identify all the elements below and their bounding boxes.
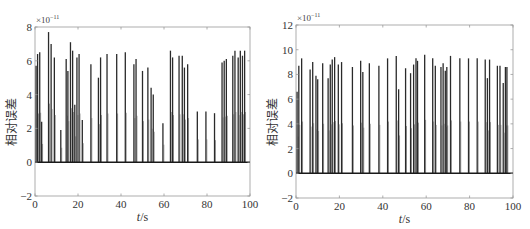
y-tick-label: 10 bbox=[282, 44, 294, 56]
x-tick-label: 80 bbox=[464, 200, 476, 212]
y-tick-label: 12 bbox=[282, 19, 293, 31]
x-tick-label: 0 bbox=[32, 198, 38, 210]
y-tick-label: 4 bbox=[288, 118, 294, 130]
x-tick-label: 60 bbox=[421, 200, 433, 212]
y-tick-label: 6 bbox=[27, 55, 33, 67]
y-tick-label: 2 bbox=[27, 122, 33, 134]
right-chart-panel: 020406080100−2024681012×10−11t/s相对误差 bbox=[265, 0, 530, 229]
x-tick-label: 20 bbox=[334, 200, 346, 212]
y-axis-title: 相对误差 bbox=[266, 98, 280, 146]
x-tick-label: 0 bbox=[293, 200, 299, 212]
x-tick-label: 100 bbox=[505, 200, 522, 212]
y-tick-label: 8 bbox=[27, 21, 33, 33]
left-chart: 020406080100−202468×10−11t/s相对误差 bbox=[0, 0, 265, 229]
x-tick-label: 40 bbox=[377, 200, 389, 212]
y-exponent-label: ×10−11 bbox=[297, 12, 320, 23]
stem-series bbox=[297, 55, 508, 174]
y-tick-label: 6 bbox=[288, 93, 294, 105]
y-tick-label: 0 bbox=[27, 156, 33, 168]
x-tick-label: 60 bbox=[159, 198, 171, 210]
x-axis-title: t/s bbox=[137, 210, 149, 224]
x-tick-label: 80 bbox=[202, 198, 214, 210]
y-tick-label: 4 bbox=[27, 89, 33, 101]
right-chart: 020406080100−2024681012×10−11t/s相对误差 bbox=[265, 0, 530, 229]
y-tick-label: 2 bbox=[288, 143, 294, 155]
y-tick-label: 0 bbox=[288, 167, 294, 179]
x-axis-title: t/s bbox=[399, 212, 411, 226]
x-tick-label: 100 bbox=[242, 198, 259, 210]
y-axis-title: 相对误差 bbox=[5, 98, 19, 146]
x-tick-label: 40 bbox=[116, 198, 128, 210]
stem-series bbox=[36, 32, 245, 162]
y-tick-label: −2 bbox=[20, 190, 32, 202]
y-tick-label: −2 bbox=[281, 192, 293, 204]
left-chart-panel: 020406080100−202468×10−11t/s相对误差 bbox=[0, 0, 265, 229]
y-tick-label: 8 bbox=[288, 68, 294, 80]
x-tick-label: 20 bbox=[73, 198, 85, 210]
y-exponent-label: ×10−11 bbox=[36, 14, 59, 25]
